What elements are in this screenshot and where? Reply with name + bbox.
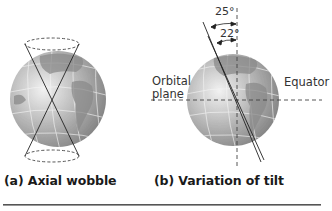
equator-label: Equator	[284, 76, 329, 89]
bottom-rule	[3, 204, 321, 206]
caption-axial-wobble: (a) Axial wobble	[4, 173, 117, 188]
angle-25-label: 25°	[215, 5, 235, 18]
orbital-plane-line2: plane	[152, 88, 191, 101]
orbital-plane-label: Orbital plane	[152, 75, 191, 101]
caption-variation-of-tilt: (b) Variation of tilt	[154, 173, 284, 188]
panel-b-globe	[186, 52, 280, 150]
angle-22-label: 22°	[220, 27, 240, 40]
panel-a-globe	[10, 50, 106, 150]
